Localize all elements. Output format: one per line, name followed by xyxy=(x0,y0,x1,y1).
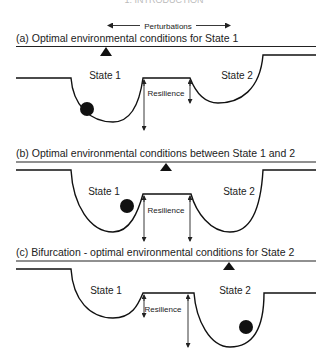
panel-title: (a) Optimal environmental conditions for… xyxy=(16,32,239,44)
state1-label: State 1 xyxy=(89,70,121,81)
panel-title: (c) Bifurcation - optimal environmental … xyxy=(16,246,295,258)
stability-landscape xyxy=(16,170,316,232)
state2-label: State 2 xyxy=(221,70,253,81)
perturbations-label: Perturbations xyxy=(144,22,192,31)
environment-marker-icon xyxy=(100,47,112,56)
ball-and-cup-diagram: 1. INTRODUCTION Perturbations (a) Optima… xyxy=(0,0,329,362)
state1-label: State 1 xyxy=(88,186,120,197)
state2-label: State 2 xyxy=(219,285,251,296)
ball-icon xyxy=(239,320,253,334)
environment-marker-icon xyxy=(160,163,172,171)
state1-label: State 1 xyxy=(90,285,122,296)
panel-a: (a) Optimal environmental conditions for… xyxy=(16,32,316,130)
resilience-label: Resilience xyxy=(148,89,185,98)
environment-marker-icon xyxy=(223,262,235,270)
resilience-label: Resilience xyxy=(145,305,182,314)
state2-label: State 2 xyxy=(223,186,255,197)
perturbations-arrow: Perturbations xyxy=(108,22,230,31)
panel-c: (c) Bifurcation - optimal environmental … xyxy=(16,246,316,347)
ball-icon xyxy=(120,199,134,213)
ball-icon xyxy=(80,102,94,116)
page-header: 1. INTRODUCTION xyxy=(124,0,203,5)
resilience-label: Resilience xyxy=(148,206,185,215)
panel-title: (b) Optimal environmental conditions bet… xyxy=(16,147,295,159)
panel-b: (b) Optimal environmental conditions bet… xyxy=(16,147,316,241)
